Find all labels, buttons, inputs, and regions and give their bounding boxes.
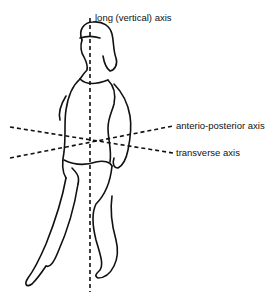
leotard-bottom (64, 160, 112, 166)
hairline (80, 37, 100, 39)
long-axis-label: long (vertical) axis (95, 13, 172, 23)
collar (80, 79, 108, 83)
face-outline (80, 40, 87, 79)
back-leg (93, 166, 117, 278)
right-arm (113, 84, 131, 168)
transverse-axis-label: transverse axis (176, 148, 240, 158)
anterio-posterior-axis-label: anterio-posterior axis (176, 121, 265, 131)
torso-right (108, 80, 115, 162)
body-axes-diagram: long (vertical) axis anterio-posterior a… (0, 0, 275, 302)
crotch (72, 168, 79, 184)
front-leg (26, 178, 66, 286)
